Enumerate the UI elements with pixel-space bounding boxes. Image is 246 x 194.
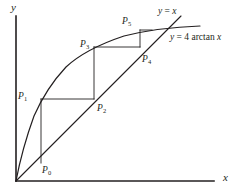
point-label-p0-base: P bbox=[42, 165, 48, 175]
point-label-p3-sub: 3 bbox=[86, 43, 89, 50]
point-label-p5-sub: 5 bbox=[128, 20, 131, 27]
point-label-p2: P2 bbox=[97, 104, 106, 114]
point-label-p4-sub: 4 bbox=[148, 58, 151, 65]
plot-canvas bbox=[0, 0, 246, 194]
function-eq: = bbox=[174, 32, 184, 42]
y-axis-label: y bbox=[11, 2, 16, 13]
x-axis-label: x bbox=[223, 172, 228, 183]
point-label-p5: P5 bbox=[122, 17, 131, 27]
function-var: x bbox=[217, 32, 221, 42]
point-label-p2-base: P bbox=[97, 103, 103, 113]
identity-rhs: x bbox=[172, 6, 176, 16]
point-label-p0: P0 bbox=[42, 166, 51, 176]
point-label-p1-sub: 1 bbox=[24, 95, 27, 102]
cobweb-diagram-figure: y x y = x y = 4 arctan x P0 P1 P2 P3 P4 … bbox=[0, 0, 246, 194]
point-label-p1: P1 bbox=[18, 92, 27, 102]
point-label-p5-base: P bbox=[122, 16, 128, 26]
arctan-curve bbox=[16, 26, 200, 181]
point-label-p0-sub: 0 bbox=[48, 169, 51, 176]
point-label-p2-sub: 2 bbox=[103, 107, 106, 114]
point-label-p3-base: P bbox=[80, 39, 86, 49]
point-label-p3: P3 bbox=[80, 40, 89, 50]
function-curve-label: y = 4 arctan x bbox=[170, 33, 221, 43]
point-label-p1-base: P bbox=[18, 91, 24, 101]
point-label-p4-base: P bbox=[142, 54, 148, 64]
cobweb-staircase bbox=[41, 30, 152, 163]
identity-eq: = bbox=[162, 6, 172, 16]
point-label-p4: P4 bbox=[142, 55, 151, 65]
function-name: arctan bbox=[191, 32, 217, 42]
identity-line-label: y = x bbox=[158, 7, 177, 17]
